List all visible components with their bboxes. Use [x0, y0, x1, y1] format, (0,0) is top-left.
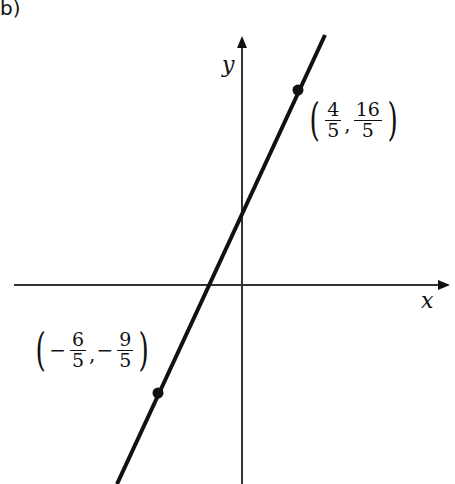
point-label-lower: ( − 65 , − 95 ): [32, 328, 152, 372]
y-axis-label: y: [222, 52, 234, 77]
point-marker: [153, 388, 164, 399]
x-axis-label: x: [421, 288, 433, 313]
point-label-upper: ( 45 , 165 ): [306, 98, 401, 142]
point-marker: [293, 85, 304, 96]
graph-line: [117, 35, 325, 484]
